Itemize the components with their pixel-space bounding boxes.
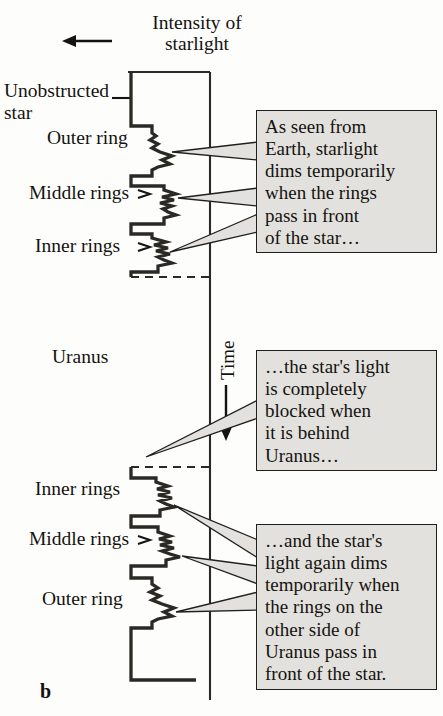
ring-label-inner-lower: Inner rings (35, 478, 120, 500)
ring-label-outer-lower: Outer ring (42, 588, 123, 610)
unobstructed-star-label: Unobstructed star (4, 80, 109, 124)
occultation-diagram: Intensity of starlight Unobstructed star… (0, 0, 443, 716)
ring-label-middle-upper: Middle rings (29, 182, 129, 204)
callout-leader-planet (146, 400, 258, 457)
light-curve-ingress (131, 72, 176, 277)
ring-label-middle-lower: Middle rings (29, 528, 129, 550)
intensity-axis-label: Intensity of starlight (122, 12, 272, 55)
uranus-label: Uranus (52, 346, 108, 368)
callout-planet-block: …the star's light is completely blocked … (256, 350, 437, 471)
callout-egress-rings: …and the star's light again dims tempora… (256, 524, 437, 690)
time-axis-label: Time (217, 341, 239, 380)
intensity-arrow-icon (62, 35, 112, 47)
panel-label-b: b (40, 680, 51, 703)
ring-label-pointers (138, 190, 150, 544)
time-arrow-icon (220, 385, 232, 441)
ring-label-outer-upper: Outer ring (47, 127, 128, 149)
ring-label-inner-upper: Inner rings (35, 235, 120, 257)
callout-leaders-ingress (170, 142, 258, 252)
callout-ingress-rings: As seen from Earth, starlight dims tempo… (256, 110, 437, 253)
callout-leaders-egress (174, 505, 258, 612)
light-curve-egress (131, 467, 196, 680)
